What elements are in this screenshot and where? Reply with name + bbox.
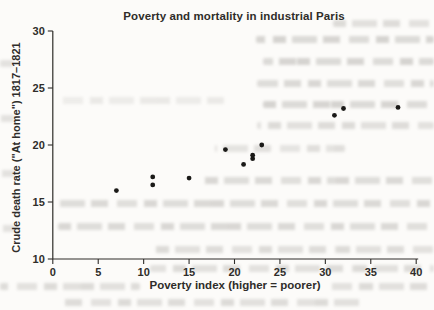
data-point [396, 105, 401, 110]
scatter-plot: 10152025300510152025303540 [0, 0, 434, 310]
x-axis-label: Poverty index (higher = poorer) [52, 279, 418, 291]
data-point [150, 183, 155, 188]
data-point [187, 176, 192, 181]
x-tick-label: 15 [183, 266, 195, 278]
y-tick-label: 20 [33, 139, 45, 151]
x-tick-label: 35 [365, 266, 377, 278]
x-tick-label: 0 [50, 266, 56, 278]
data-point [150, 175, 155, 180]
x-tick-label: 20 [228, 266, 240, 278]
data-point [241, 162, 246, 167]
data-point [114, 188, 119, 193]
y-tick-label: 25 [33, 82, 45, 94]
x-tick-label: 5 [95, 266, 101, 278]
x-tick-label: 25 [274, 266, 286, 278]
x-tick-label: 10 [138, 266, 150, 278]
y-tick-label: 30 [33, 25, 45, 37]
axis-spines [53, 31, 418, 259]
data-point [223, 147, 228, 152]
data-point [341, 106, 346, 111]
chart-title: Poverty and mortality in industrial Pari… [52, 10, 416, 22]
data-point [259, 143, 264, 148]
x-tick-label: 30 [319, 266, 331, 278]
x-tick-label: 40 [410, 266, 422, 278]
y-tick-label: 10 [33, 253, 45, 265]
scanned-page: Poverty and mortality in industrial Pari… [0, 0, 434, 310]
data-point [332, 113, 337, 118]
data-point [250, 153, 255, 158]
y-tick-label: 15 [33, 196, 45, 208]
y-axis-label: Crude death rate ("At home") 1817–1821 [10, 28, 25, 268]
